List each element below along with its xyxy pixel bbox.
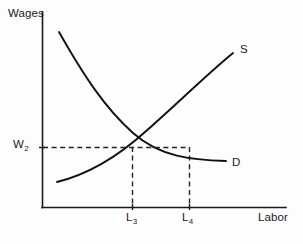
y-tick-label-w2-base: W — [13, 138, 24, 150]
y-axis-title: Wages — [8, 8, 44, 20]
x-tick-label-l3-subscript: 3 — [132, 217, 137, 226]
x-axis-title: Labor — [258, 212, 288, 224]
demand-curve — [59, 32, 226, 161]
supply-demand-chart: Wages Labor W2 L3 L4 S D — [0, 0, 303, 244]
x-tick-label-l4-subscript: 4 — [188, 217, 193, 226]
chart-canvas — [0, 0, 303, 244]
y-tick-label-w2: W2 — [13, 139, 29, 151]
x-tick-label-l4: L4 — [182, 212, 193, 224]
demand-curve-label: D — [232, 157, 240, 169]
supply-curve-label: S — [240, 44, 248, 56]
y-tick-label-w2-subscript: 2 — [24, 144, 29, 153]
x-tick-label-l3: L3 — [126, 212, 137, 224]
